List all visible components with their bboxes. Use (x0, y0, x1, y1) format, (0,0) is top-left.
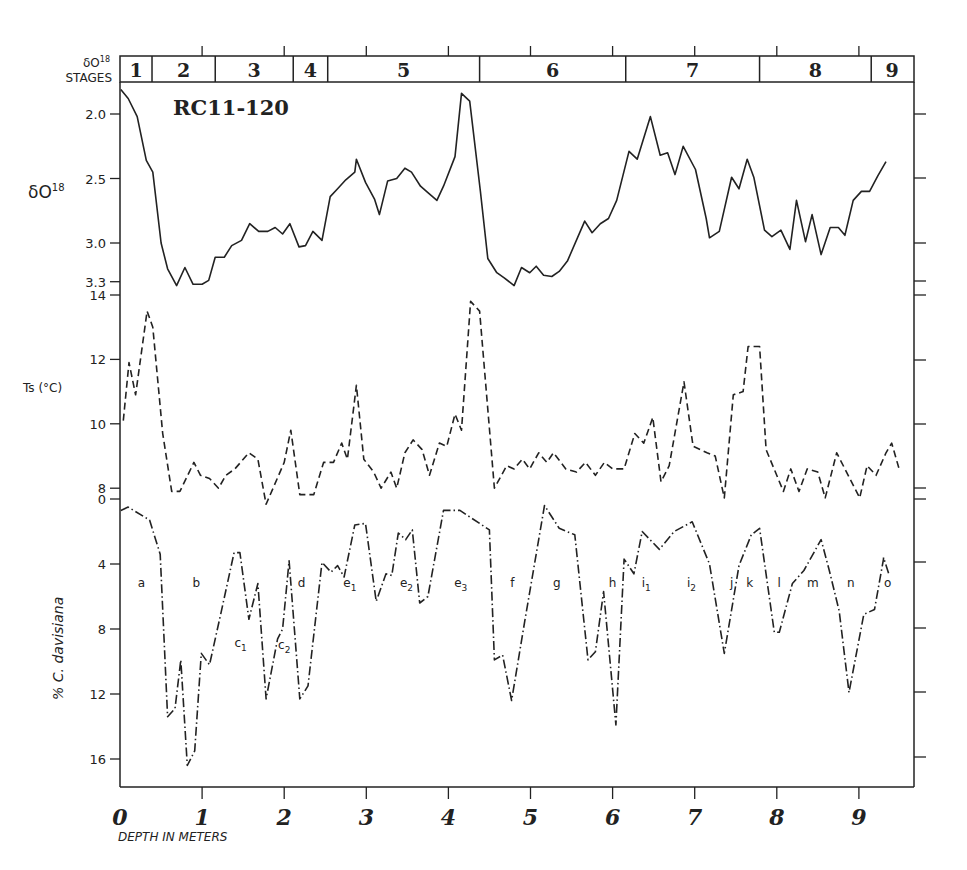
ylabel-cdavisiana: % C. davisiana (50, 597, 66, 700)
stage-label: 3 (248, 59, 261, 81)
zone-label-subscript: 2 (690, 583, 696, 593)
chart-title: RC11-120 (173, 95, 289, 120)
zone-label-subscript: 2 (285, 645, 291, 655)
stage-label-delta: δO (83, 56, 100, 70)
y-tick-label: 14 (89, 288, 106, 303)
zone-label-subscript: 3 (462, 583, 468, 593)
x-tick-label: 3 (359, 804, 374, 830)
x-axis: 0123456789 (112, 787, 866, 830)
stage-label: 7 (686, 59, 699, 81)
zone-label: e3 (454, 576, 467, 593)
stage-label: 2 (177, 59, 190, 81)
zone-label: f (510, 576, 515, 590)
zone-label: o (884, 576, 891, 590)
zone-label-subscript: 1 (241, 643, 247, 653)
stage-label-line2: STAGES (65, 71, 112, 85)
stage-bar-outline (120, 56, 914, 82)
x-tick-label: 6 (605, 804, 620, 830)
stage-label: 8 (809, 59, 822, 81)
zone-label: k (746, 576, 753, 590)
y-tick-label: 12 (89, 687, 106, 702)
x-tick-label: 1 (194, 804, 209, 830)
y-tick-label: 4 (98, 557, 106, 572)
stage-label: 6 (546, 59, 559, 81)
zone-label: a (138, 576, 145, 590)
stage-label: 5 (397, 59, 410, 81)
ylabel-ts: Ts (°C) (22, 381, 62, 395)
zone-label: c2 (278, 638, 290, 655)
zone-label: g (553, 576, 561, 590)
zone-label: h (609, 576, 617, 590)
x-tick-label: 8 (768, 804, 784, 830)
stage-label-line1: δO18 (83, 55, 110, 70)
zone-label-subscript: 1 (645, 583, 651, 593)
x-tick-label: 9 (851, 804, 866, 830)
x-tick-label: 2 (276, 804, 292, 830)
data-series (121, 90, 899, 766)
x-tick-label: 0 (112, 804, 128, 830)
y-tick-label: 8 (98, 622, 106, 637)
x-axis-label: DEPTH IN METERS (118, 830, 228, 844)
series-Ts (123, 301, 899, 504)
y-tick-label: 16 (89, 752, 106, 767)
x-tick-label: 5 (523, 804, 538, 830)
zone-label: b (193, 576, 201, 590)
zone-label: j (729, 576, 733, 590)
stage-label: 4 (304, 59, 317, 81)
zone-label: e1 (343, 576, 356, 593)
zone-label: n (847, 576, 855, 590)
zone-label: l (778, 576, 781, 590)
plot-frame (120, 82, 914, 787)
y-tick-label: 12 (89, 352, 106, 367)
x-tick-label: 7 (687, 804, 703, 830)
stage-label: 1 (129, 59, 142, 81)
y-tick-label: 3.0 (85, 236, 106, 251)
zone-label-subscript: 2 (407, 583, 413, 593)
zone-label: e2 (400, 576, 413, 593)
zone-label: d (298, 576, 306, 590)
stage-label: 9 (886, 59, 899, 81)
zone-label: c1 (235, 636, 247, 653)
x-tick-label: 4 (441, 804, 456, 830)
stage-bar: 123456789 (120, 46, 914, 82)
ylabel-delta18o: δO18 (28, 182, 65, 202)
y-tick-label: 2.5 (85, 172, 106, 187)
y-tick-label: 2.0 (85, 107, 106, 122)
chart-figure: 123456789 δO18 STAGES 2.02.53.03.3141210… (0, 0, 967, 870)
y-tick-label: 10 (89, 417, 106, 432)
zone-label: m (807, 576, 819, 590)
zone-label: i1 (642, 576, 651, 593)
zone-label: i2 (687, 576, 696, 593)
zone-label-subscript: 1 (351, 583, 357, 593)
y-tick-label: 0 (98, 492, 106, 507)
